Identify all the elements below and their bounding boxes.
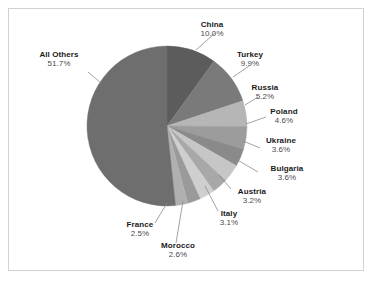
pie-label-ukraine-value: 3.6% xyxy=(252,146,310,155)
pie-label-turkey: Turkey 9.9% xyxy=(222,51,278,69)
pie-label-russia: Russia 5.2% xyxy=(237,84,293,102)
pie-label-china-value: 10.0% xyxy=(184,30,240,39)
pie-chart-graphic xyxy=(0,0,374,282)
pie-label-all-others: All Others 51.7% xyxy=(26,51,92,69)
pie-slice-group xyxy=(87,46,247,206)
pie-label-france: France 2.5% xyxy=(113,221,167,239)
pie-label-austria: Austria 3.2% xyxy=(224,188,280,206)
pie-label-france-value: 2.5% xyxy=(113,230,167,239)
pie-label-bulgaria-value: 3.6% xyxy=(256,174,318,183)
pie-label-russia-value: 5.2% xyxy=(237,93,293,102)
pie-label-ukraine: Ukraine 3.6% xyxy=(252,137,310,155)
leader-line-bulgaria xyxy=(234,158,258,172)
pie-label-poland: Poland 4.6% xyxy=(256,108,312,126)
pie-label-morocco: Morocco 2.6% xyxy=(148,242,208,260)
pie-label-poland-value: 4.6% xyxy=(256,117,312,126)
pie-label-morocco-value: 2.6% xyxy=(148,251,208,260)
pie-slice-all-others xyxy=(87,46,176,206)
pie-label-all-others-value: 51.7% xyxy=(26,60,92,69)
pie-label-china: China 10.0% xyxy=(184,21,240,39)
pie-label-italy-value: 3.1% xyxy=(206,219,252,228)
pie-label-turkey-value: 9.9% xyxy=(222,60,278,69)
pie-chart-figure: China 10.0% Turkey 9.9% Russia 5.2% Pola… xyxy=(0,0,374,282)
leader-line-france xyxy=(155,203,167,223)
pie-label-austria-value: 3.2% xyxy=(224,197,280,206)
leader-line-all-others xyxy=(88,72,101,83)
leader-line-morocco xyxy=(176,201,183,243)
pie-label-italy: Italy 3.1% xyxy=(206,210,252,228)
pie-label-bulgaria: Bulgaria 3.6% xyxy=(256,165,318,183)
